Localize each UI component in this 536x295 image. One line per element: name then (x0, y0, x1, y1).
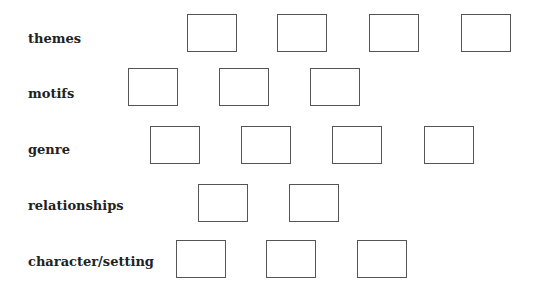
relationships-box-1[interactable] (198, 184, 248, 222)
themes-box-1[interactable] (187, 14, 237, 52)
themes-box-4[interactable] (461, 14, 511, 52)
genre-box-2[interactable] (241, 126, 291, 164)
motifs-box-3[interactable] (310, 68, 360, 106)
motifs-box-1[interactable] (128, 68, 178, 106)
relationships-box-2[interactable] (289, 184, 339, 222)
motifs-box-2[interactable] (219, 68, 269, 106)
genre-box-3[interactable] (332, 126, 382, 164)
character-setting-box-3[interactable] (357, 240, 407, 278)
themes-box-3[interactable] (369, 14, 419, 52)
themes-box-2[interactable] (277, 14, 327, 52)
row-label-genre: genre (28, 142, 70, 158)
character-setting-box-2[interactable] (266, 240, 316, 278)
genre-box-4[interactable] (424, 126, 474, 164)
character-setting-box-1[interactable] (176, 240, 226, 278)
row-label-relationships: relationships (28, 198, 124, 214)
row-label-motifs: motifs (28, 86, 74, 102)
row-label-themes: themes (28, 31, 81, 47)
row-label-character-setting: character/setting (28, 254, 154, 270)
genre-box-1[interactable] (150, 126, 200, 164)
